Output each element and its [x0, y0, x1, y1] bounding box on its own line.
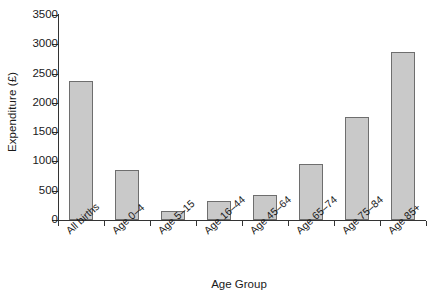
x-axis-title: Age Group [0, 278, 438, 290]
y-axis-tick-label-wrap: 3000 [0, 38, 58, 50]
x-axis-tick [288, 221, 289, 226]
y-axis-tick-label: 500 [12, 185, 58, 197]
bars-layer [58, 15, 426, 220]
x-axis-tick [58, 221, 59, 226]
bar [391, 52, 415, 220]
y-axis-tick-label: 3500 [12, 9, 58, 21]
y-axis-tick-label: 1000 [12, 155, 58, 167]
x-axis-title-text: Age Group [211, 278, 267, 290]
x-axis-tick [196, 221, 197, 226]
x-axis-tick [150, 221, 151, 226]
y-axis-tick-label-wrap: 0 [0, 214, 58, 226]
x-axis-tick [104, 221, 105, 226]
x-axis-tick [380, 221, 381, 226]
y-axis-tick-label: 3000 [12, 38, 58, 50]
bar-chart-figure: Expenditure (£) 050010001500200025003000… [0, 0, 438, 299]
y-axis-tick-label: 0 [12, 214, 58, 226]
y-axis-tick-label: 2500 [12, 68, 58, 80]
y-axis-tick-label-wrap: 1500 [0, 126, 58, 138]
y-axis-tick-label-wrap: 2500 [0, 68, 58, 80]
y-axis-tick-label: 2000 [12, 97, 58, 109]
y-axis-tick-label-wrap: 500 [0, 185, 58, 197]
y-axis-tick-label-wrap: 3500 [0, 9, 58, 21]
y-axis-tick-label: 1500 [12, 126, 58, 138]
x-axis-tick [334, 221, 335, 226]
x-axis-tick [242, 221, 243, 226]
y-axis-tick-label-wrap: 1000 [0, 155, 58, 167]
bar [69, 81, 93, 220]
y-axis-tick-label-wrap: 2000 [0, 97, 58, 109]
x-axis-tick [426, 221, 427, 226]
